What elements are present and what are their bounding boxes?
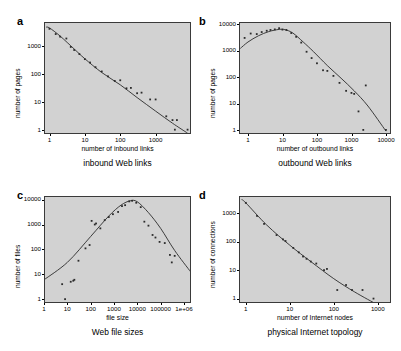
data-point (298, 251, 300, 253)
data-point (306, 258, 308, 260)
data-point (256, 215, 258, 217)
y-tickmark (237, 299, 239, 300)
y-tickmark (237, 242, 239, 243)
data-point (282, 238, 284, 240)
y-tick-label: 1 (205, 295, 236, 301)
data-point (285, 240, 287, 242)
x-tick-label: 100 (319, 306, 349, 312)
data-point (336, 289, 338, 291)
data-point (323, 269, 325, 271)
data-point (373, 298, 375, 300)
x-tick-label: 10 (275, 306, 305, 312)
panel-caption-d: physical Internet topology (239, 327, 391, 337)
fit-curve-d (242, 200, 378, 305)
y-tickmark (237, 270, 239, 271)
data-point (310, 261, 312, 263)
data-point (263, 223, 265, 225)
data-point (362, 289, 364, 291)
data-point (345, 284, 347, 286)
panel-d: d11010010001101001000number of connectio… (0, 0, 401, 351)
data-point (326, 268, 328, 270)
figure-container: a11010010001101001000number of pagesnumb… (0, 0, 401, 351)
x-tick-label: 1000 (363, 306, 393, 312)
y-tickmark (237, 213, 239, 214)
data-point (245, 202, 247, 204)
data-point (315, 263, 317, 265)
y-axis-label-d: number of connections (209, 221, 216, 288)
y-tick-label: 1000 (205, 210, 236, 216)
data-point (292, 247, 294, 249)
data-point (351, 289, 353, 291)
data-point (302, 256, 304, 258)
plot-graphics-d (0, 0, 401, 351)
data-point (276, 234, 278, 236)
x-tick-label: 1 (231, 306, 261, 312)
x-axis-label-d: number of Internet nodes (239, 314, 391, 321)
